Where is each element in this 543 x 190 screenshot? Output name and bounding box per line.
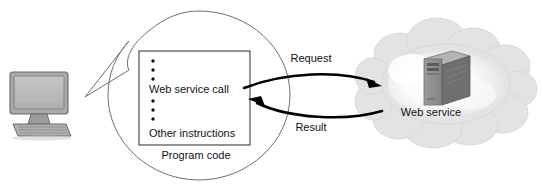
server-tower-icon xyxy=(424,51,470,105)
desktop-computer-icon xyxy=(10,72,72,141)
web-service-diagram: Web service Web service call Other instr… xyxy=(0,0,543,190)
code-line-web-service-call: Web service call xyxy=(149,83,229,95)
result-label: Result xyxy=(295,121,326,133)
cloud-label: Web service xyxy=(401,106,461,118)
monitor-screen xyxy=(14,76,64,109)
request-label: Request xyxy=(291,52,332,64)
program-code-caption: Program code xyxy=(161,149,230,161)
diagram-canvas: Web service Web service call Other instr… xyxy=(0,0,543,190)
code-line-other-instructions: Other instructions xyxy=(149,127,236,139)
